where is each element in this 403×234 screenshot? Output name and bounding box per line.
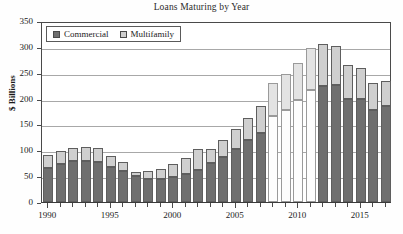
bar-segment-commercial[interactable] — [256, 133, 266, 202]
bar-group[interactable] — [306, 21, 316, 202]
bar-group[interactable] — [106, 21, 116, 202]
bar-segment-commercial[interactable] — [306, 90, 316, 202]
bar-segment-multifamily[interactable] — [256, 106, 266, 132]
bar-segment-commercial[interactable] — [381, 106, 391, 202]
bar-segment-multifamily[interactable] — [93, 148, 103, 161]
bar-segment-multifamily[interactable] — [331, 46, 341, 85]
bar-segment-multifamily[interactable] — [306, 48, 316, 89]
bar-segment-multifamily[interactable] — [68, 148, 78, 161]
bar-segment-commercial[interactable] — [343, 99, 353, 202]
bar-segment-multifamily[interactable] — [156, 169, 166, 178]
bar-segment-commercial[interactable] — [81, 161, 91, 202]
bar-segment-multifamily[interactable] — [143, 171, 153, 179]
bar-group[interactable] — [193, 21, 203, 202]
bar-group[interactable] — [368, 21, 378, 202]
bar-group[interactable] — [156, 21, 166, 202]
bar-segment-commercial[interactable] — [106, 167, 116, 202]
x-axis-tick — [385, 203, 386, 207]
bar-segment-multifamily[interactable] — [381, 81, 391, 107]
bar-group[interactable] — [293, 21, 303, 202]
bar-segment-multifamily[interactable] — [231, 129, 241, 149]
bar-segment-commercial[interactable] — [43, 168, 53, 202]
bar-segment-commercial[interactable] — [181, 174, 191, 202]
bar-group[interactable] — [56, 21, 66, 202]
bar-segment-multifamily[interactable] — [131, 172, 141, 176]
bar-group[interactable] — [131, 21, 141, 202]
bar-group[interactable] — [68, 21, 78, 202]
bar-segment-commercial[interactable] — [268, 116, 278, 202]
bar-segment-multifamily[interactable] — [56, 151, 66, 164]
x-axis-tick — [247, 203, 248, 207]
bar-segment-multifamily[interactable] — [281, 74, 291, 110]
bar-segment-commercial[interactable] — [156, 179, 166, 202]
x-axis-tick — [60, 203, 61, 207]
bar-group[interactable] — [43, 21, 53, 202]
bar-group[interactable] — [81, 21, 91, 202]
bar-segment-multifamily[interactable] — [343, 65, 353, 99]
bar-segment-commercial[interactable] — [356, 99, 366, 202]
bar-group[interactable] — [356, 21, 366, 202]
bar-group[interactable] — [331, 21, 341, 202]
bar-group[interactable] — [343, 21, 353, 202]
y-axis-tick — [37, 100, 41, 101]
bar-segment-multifamily[interactable] — [168, 164, 178, 177]
bar-group[interactable] — [281, 21, 291, 202]
bar-group[interactable] — [143, 21, 153, 202]
bar-group[interactable] — [381, 21, 391, 202]
bar-group[interactable] — [256, 21, 266, 202]
bar-group[interactable] — [118, 21, 128, 202]
bar-segment-multifamily[interactable] — [243, 118, 253, 141]
bar-segment-multifamily[interactable] — [81, 147, 91, 160]
bar-group[interactable] — [206, 21, 216, 202]
bar-segment-multifamily[interactable] — [181, 158, 191, 174]
x-axis-tick — [135, 203, 136, 207]
x-axis-tick — [210, 203, 211, 207]
x-axis-tick — [197, 203, 198, 207]
x-axis-tick — [272, 203, 273, 207]
bar-segment-commercial[interactable] — [293, 100, 303, 202]
bar-segment-multifamily[interactable] — [368, 83, 378, 110]
bar-segment-commercial[interactable] — [143, 179, 153, 202]
bar-segment-commercial[interactable] — [56, 164, 66, 202]
bar-segment-multifamily[interactable] — [206, 149, 216, 163]
bar-segment-commercial[interactable] — [131, 176, 141, 202]
bar-segment-multifamily[interactable] — [268, 83, 278, 116]
y-axis-label: 350 — [3, 16, 33, 26]
bar-segment-commercial[interactable] — [168, 177, 178, 202]
legend-item-commercial[interactable]: Commercial — [53, 29, 109, 39]
bar-segment-commercial[interactable] — [331, 85, 341, 202]
bar-segment-multifamily[interactable] — [218, 140, 228, 156]
bar-segment-multifamily[interactable] — [106, 156, 116, 167]
bar-segment-commercial[interactable] — [281, 110, 291, 202]
bar-group[interactable] — [218, 21, 228, 202]
bar-segment-commercial[interactable] — [218, 157, 228, 203]
bar-group[interactable] — [243, 21, 253, 202]
bar-segment-commercial[interactable] — [243, 140, 253, 202]
bar-segment-commercial[interactable] — [318, 86, 328, 202]
bar-segment-commercial[interactable] — [231, 149, 241, 202]
bar-segment-commercial[interactable] — [206, 163, 216, 202]
y-axis-tick — [37, 151, 41, 152]
bar-group[interactable] — [318, 21, 328, 202]
bar-group[interactable] — [268, 21, 278, 202]
bar-group[interactable] — [231, 21, 241, 202]
bar-group[interactable] — [93, 21, 103, 202]
bar-segment-multifamily[interactable] — [356, 68, 366, 99]
bar-segment-multifamily[interactable] — [43, 155, 53, 168]
x-axis-tick — [372, 203, 373, 207]
legend-item-multifamily[interactable]: Multifamily — [120, 29, 175, 39]
bar-segment-multifamily[interactable] — [193, 149, 203, 170]
bar-segment-commercial[interactable] — [118, 171, 128, 202]
bar-segment-commercial[interactable] — [68, 161, 78, 202]
bar-segment-multifamily[interactable] — [318, 44, 328, 86]
bar-group[interactable] — [181, 21, 191, 202]
bar-group[interactable] — [168, 21, 178, 202]
bar-segment-commercial[interactable] — [368, 110, 378, 202]
x-axis-tick — [335, 203, 336, 207]
x-axis-tick — [147, 203, 148, 207]
bar-segment-multifamily[interactable] — [118, 162, 128, 171]
x-axis-tick — [85, 203, 86, 207]
bar-segment-multifamily[interactable] — [293, 63, 303, 100]
bar-segment-commercial[interactable] — [193, 170, 203, 202]
bar-segment-commercial[interactable] — [93, 162, 103, 202]
